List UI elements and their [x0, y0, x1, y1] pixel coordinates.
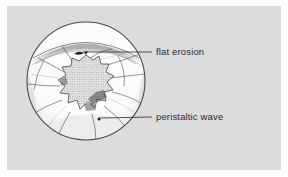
figure-root: flat erosion peristaltic wave	[0, 0, 288, 177]
scope-field	[27, 11, 146, 142]
annotation-label-flat-erosion: flat erosion	[156, 47, 204, 57]
annotation-label-peristaltic-wave: peristaltic wave	[156, 112, 223, 122]
endoscopic-illustration	[0, 0, 288, 177]
